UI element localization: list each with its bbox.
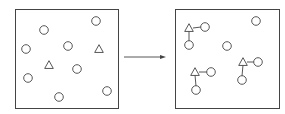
circle-particle-icon — [40, 26, 49, 35]
triangle-particle-icon — [191, 68, 200, 76]
arrow-head-icon — [160, 55, 166, 59]
before-panel — [16, 10, 119, 109]
bond-line — [195, 75, 196, 86]
circle-particle-icon — [254, 58, 263, 67]
before-box — [16, 10, 119, 109]
circle-particle-icon — [22, 45, 31, 54]
after-panel — [176, 10, 280, 109]
triangle-particle-icon — [185, 24, 194, 32]
circle-particle-icon — [55, 93, 64, 102]
circle-particle-icon — [24, 74, 33, 83]
circle-particle-icon — [207, 68, 216, 77]
triangle-particle-icon — [239, 58, 248, 66]
bond-line — [242, 65, 243, 76]
triangle-particle-icon — [95, 45, 104, 53]
reaction-arrow — [124, 55, 166, 59]
diagram-canvas — [0, 0, 285, 114]
circle-particle-icon — [238, 76, 247, 85]
circle-particle-icon — [252, 17, 261, 26]
circle-particle-icon — [201, 23, 210, 32]
circle-particle-icon — [103, 87, 112, 96]
circle-particle-icon — [64, 42, 73, 51]
triangle-particle-icon — [45, 61, 54, 69]
circle-particle-icon — [223, 42, 232, 51]
after-box — [176, 10, 280, 109]
bond-line — [193, 27, 201, 28]
circle-particle-icon — [185, 41, 194, 50]
circle-particle-icon — [192, 86, 201, 95]
circle-particle-icon — [92, 17, 101, 26]
circle-particle-icon — [73, 65, 82, 74]
